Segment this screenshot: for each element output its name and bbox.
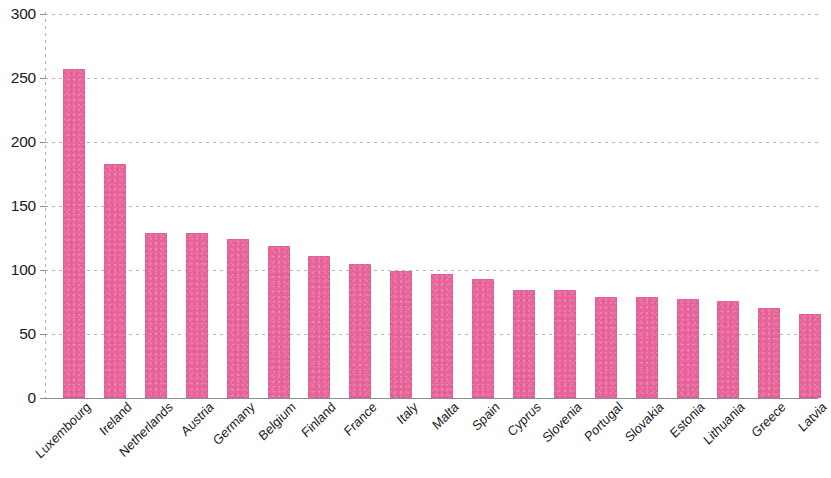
x-axis-category-label: Latvia [796,399,829,434]
gridline [45,206,818,207]
x-axis-category-label-wrapper: Latvia [796,400,830,434]
plot-area [45,14,818,398]
bar [472,279,494,398]
bar [390,271,412,398]
x-axis-category-label: Portugal [582,399,625,444]
x-axis-category-label-wrapper: Portugal [581,400,625,444]
x-axis-category-label-wrapper: Germany [210,400,258,448]
axis-baseline [45,398,818,399]
bar [636,297,658,398]
y-axis-tick-label: 150 [2,198,36,214]
x-axis-category-label: Slovenia [540,399,584,445]
bar [799,314,821,398]
y-axis-tick-mark [40,334,46,335]
bar [677,299,699,398]
y-axis-tick-mark [40,398,46,399]
x-axis-category-label: Germany [210,399,257,448]
bar [268,246,290,398]
x-axis-category-label: Malta [430,399,461,432]
x-axis-category-label: Belgium [256,399,298,443]
x-axis-category-label: Lithuania [702,399,748,447]
gridline [45,142,818,143]
y-axis-tick-label: 200 [2,134,36,150]
x-axis-category-label-wrapper: Ireland [97,400,135,438]
bar [431,274,453,398]
y-axis-tick-label: 100 [2,262,36,278]
x-axis-category-label-wrapper: Austria [178,400,217,439]
y-axis-tick-label: 250 [2,70,36,86]
bar [186,233,208,398]
x-axis-category-label-wrapper: Slovakia [622,400,667,445]
bar [758,308,780,398]
x-axis-category-label: Spain [470,399,502,433]
x-axis-category-label: France [342,399,379,439]
bar [554,290,576,398]
x-axis-category-label-wrapper: Italy [394,400,421,427]
x-axis-category-label-wrapper: Malta [430,400,462,432]
bar [63,69,85,398]
bar [227,239,249,398]
bar [145,233,167,398]
x-axis-category-label-wrapper: Slovenia [540,400,585,445]
y-axis-tick-label: 300 [2,6,36,22]
x-axis-category-label: Luxembourg [33,399,93,461]
x-axis-category-label-wrapper: Lithuania [701,400,748,447]
y-axis-tick-mark [40,142,46,143]
bar [595,297,617,398]
x-axis-category-label-wrapper: Greece [749,400,789,440]
x-axis-category-label-wrapper: France [342,400,381,439]
bar [308,256,330,398]
x-axis-category-label-wrapper: Luxembourg [33,400,94,461]
x-axis-category-label-wrapper: Spain [469,400,502,433]
y-axis-tick-labels: 300250200150100500 [0,0,36,478]
y-axis-tick-mark [40,14,46,15]
x-axis-category-label: Slovakia [622,399,666,445]
x-axis-category-label-wrapper: Cyprus [505,400,544,439]
bar [513,290,535,398]
gridline [45,78,818,79]
x-axis-category-labels: LuxembourgIrelandNetherlandsAustriaGerma… [45,400,818,478]
y-axis-tick-mark [40,270,46,271]
y-axis-tick-mark [40,78,46,79]
x-axis-category-label: Greece [750,399,789,440]
x-axis-category-label-wrapper: Belgium [255,400,298,443]
bar [717,301,739,398]
y-axis-tick-label: 0 [2,390,36,406]
gridline [45,14,818,15]
x-axis-category-label: Cyprus [505,399,543,439]
bar [104,164,126,398]
x-axis-category-label: Ireland [97,399,134,438]
bar [349,264,371,398]
x-axis-category-label: Italy [395,399,421,427]
y-axis-tick-mark [40,206,46,207]
y-axis-tick-label: 50 [2,326,36,342]
x-axis-category-label-wrapper: Finland [299,400,339,440]
x-axis-category-label: Austria [179,399,216,439]
x-axis-category-label: Finland [300,399,339,440]
